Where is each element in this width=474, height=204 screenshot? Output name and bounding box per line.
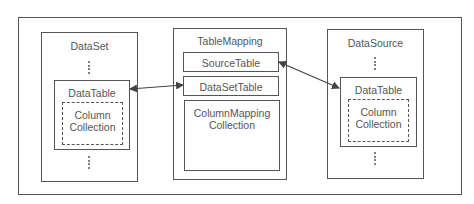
connection-arrows [0,0,474,204]
arrow-mapping-to-datasource [279,62,339,88]
arrow-dataset-to-mapping [130,85,183,89]
